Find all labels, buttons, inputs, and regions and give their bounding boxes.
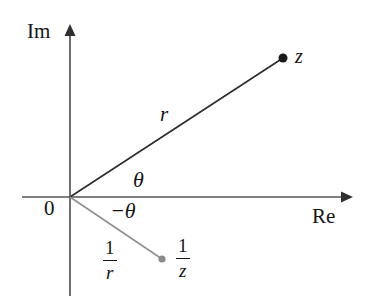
real-axis-arrowhead <box>341 192 353 203</box>
imaginary-axis-arrowhead <box>65 24 76 36</box>
point-z-marker <box>279 54 288 63</box>
modulus-r-label: r <box>160 104 168 125</box>
angle-theta-label: θ <box>133 169 144 191</box>
one-over-z-denominator: z <box>176 260 190 281</box>
point-one-over-z-label: 1 z <box>176 236 190 281</box>
one-over-r-denominator: r <box>103 262 117 283</box>
one-over-z-fraction-bar <box>176 258 190 259</box>
complex-plane-figure: Im Re 0 r z θ −θ 1 r 1 z <box>0 0 370 303</box>
point-one-over-z-marker <box>158 255 165 262</box>
real-axis-label: Re <box>312 206 335 227</box>
one-over-r-fraction-bar <box>103 260 117 261</box>
point-z-label: z <box>295 46 303 66</box>
one-over-z-numerator: 1 <box>176 236 190 257</box>
one-over-r-numerator: 1 <box>103 238 117 259</box>
modulus-one-over-r-label: 1 r <box>103 238 117 283</box>
ray-to-z <box>70 58 283 197</box>
origin-label: 0 <box>44 198 55 219</box>
angle-negative-theta-label: −θ <box>110 200 136 222</box>
imaginary-axis-label: Im <box>27 21 50 42</box>
